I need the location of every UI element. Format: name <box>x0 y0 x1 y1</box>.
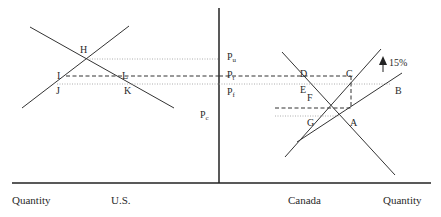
point-label-a: A <box>350 118 357 128</box>
point-label-f: F <box>307 93 313 103</box>
point-label-c: C <box>346 69 353 79</box>
canada-supply-curve-shifted <box>297 73 402 142</box>
x-axis-label-right: Quantity <box>383 195 422 206</box>
arrow-up-icon <box>379 56 387 65</box>
point-label-j: J <box>56 86 60 96</box>
point-label-i: I <box>57 71 60 81</box>
x-axis-label-left: Quantity <box>12 195 51 206</box>
price-label-pu: Pu <box>227 52 236 64</box>
point-label-g: G <box>307 118 314 128</box>
price-label-pf: Pf <box>227 87 235 99</box>
point-label-h: H <box>80 45 87 55</box>
country-label-canada: Canada <box>288 195 321 206</box>
price-label-pt: Pt <box>227 70 235 82</box>
shift-percentage-label: 15% <box>389 58 407 68</box>
diagram-canvas <box>0 0 441 217</box>
point-label-d: D <box>300 69 307 79</box>
point-label-k: K <box>124 86 131 96</box>
us-supply-curve <box>22 26 129 108</box>
point-label-e: E <box>300 85 306 95</box>
point-label-b: B <box>395 86 402 96</box>
us-demand-curve <box>30 27 174 108</box>
canada-demand-curve <box>282 52 395 175</box>
point-label-l: L <box>122 71 128 81</box>
country-label-us: U.S. <box>111 195 131 206</box>
price-label-pc: Pc <box>200 110 209 122</box>
